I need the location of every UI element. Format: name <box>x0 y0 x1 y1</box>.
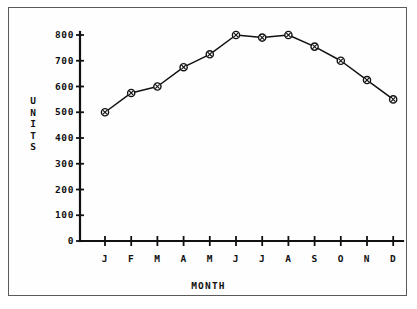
data-point-M-4 <box>206 51 213 58</box>
data-point-D-11 <box>390 96 397 103</box>
data-point-F-1 <box>128 89 135 96</box>
data-point-markers <box>101 31 396 115</box>
data-point-O-9 <box>337 57 344 64</box>
data-point-A-7 <box>285 31 292 38</box>
data-point-A-3 <box>180 64 187 71</box>
data-point-N-10 <box>363 76 370 83</box>
x-axis-title: MONTH <box>0 280 417 291</box>
chart-page: UNITS U N I T S 010020030040050060070080… <box>0 0 417 309</box>
data-point-J-0 <box>101 109 108 116</box>
data-point-S-8 <box>311 43 318 50</box>
data-point-J-5 <box>232 31 239 38</box>
tick-marks-group <box>76 35 393 246</box>
data-series-line <box>105 35 393 112</box>
data-point-M-2 <box>154 83 161 90</box>
axes-group <box>80 32 403 241</box>
plot-svg <box>0 0 417 309</box>
data-point-J-6 <box>259 34 266 41</box>
line-chart: UNITS U N I T S 010020030040050060070080… <box>0 0 417 309</box>
